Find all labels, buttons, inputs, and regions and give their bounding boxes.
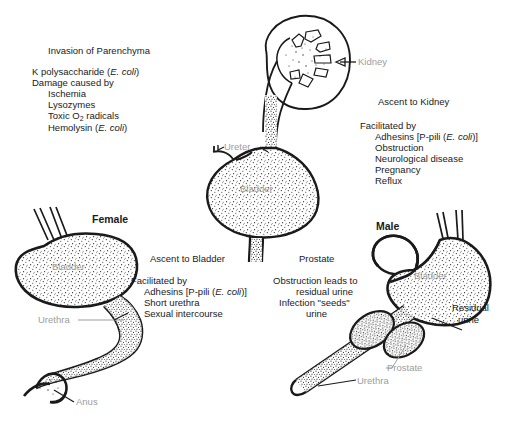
ascent-kidney-line-4: Pregnancy <box>375 164 420 176</box>
female-anatomy <box>16 207 142 403</box>
ascent-kidney-line-1: Adhesins [P-pili (E. coli)] <box>375 131 478 143</box>
ascent-kidney-line-5: Reflux <box>375 175 402 187</box>
ascent-kidney-line-0: Facilitated by <box>360 120 416 132</box>
prostate-heading: Prostate <box>299 253 334 265</box>
invasion-line-2: Ischemia <box>48 88 86 100</box>
invasion-line-3: Lysozymes <box>48 99 95 111</box>
ascent-bladder-line-3: Sexual intercourse <box>144 308 223 320</box>
bladder-male-label: Bladder <box>414 270 447 282</box>
prostate-label: Prostate <box>387 362 422 374</box>
invasion-line-5: Hemolysin (E. coli) <box>48 122 127 134</box>
invasion-line-0: K polysaccharide (E. coli) <box>32 66 139 78</box>
uti-pathogenesis-figure: Invasion of Parenchyma K polysaccharide … <box>0 0 510 421</box>
prostate-line-1: residual urine <box>296 286 353 298</box>
invasion-line-1: Damage caused by <box>32 77 114 89</box>
ascent-kidney-heading: Ascent to Kidney <box>378 96 449 108</box>
ascent-kidney-line-3: Neurological disease <box>375 153 463 165</box>
male-section-title: Male <box>376 221 399 233</box>
ascent-bladder-line-2: Short urethra <box>144 297 199 309</box>
kidney-label: Kidney <box>358 56 387 68</box>
female-section-title: Female <box>92 214 128 226</box>
ureter-center <box>265 95 277 147</box>
bladder-female-label: Bladder <box>52 261 85 273</box>
urethra-male-label: Urethra <box>357 375 389 387</box>
residual-urine-label-line2: urine <box>458 314 479 326</box>
ascent-bladder-line-0: Facilitated by <box>131 275 187 287</box>
invasion-heading: Invasion of Parenchyma <box>48 45 150 57</box>
residual-urine-label-line1: Residual <box>452 302 489 314</box>
prostate-line-2: Infection "seeds" <box>279 297 350 309</box>
ureter-label: Ureter <box>224 141 250 153</box>
figure-artwork <box>0 0 510 421</box>
prostate-line-0: Obstruction leads to <box>273 275 358 287</box>
bladder-center <box>207 145 318 262</box>
prostate-line-3: urine <box>306 308 327 320</box>
urethra-female-label: Urethra <box>38 314 70 326</box>
ascent-bladder-heading: Ascent to Bladder <box>150 253 225 265</box>
anus-label: Anus <box>76 396 98 408</box>
ascent-bladder-line-1: Adhesins [P-pili (E. coli)] <box>144 286 247 298</box>
bladder-center-label: Bladder <box>240 183 273 195</box>
ascent-kidney-line-2: Obstruction <box>375 142 424 154</box>
